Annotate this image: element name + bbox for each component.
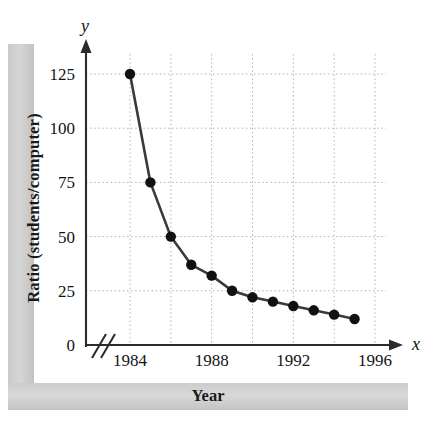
- axes: [81, 39, 404, 358]
- data-point: [125, 69, 135, 79]
- data-series-line: [130, 74, 355, 319]
- chart-plot-area: 0255075100125 1984198819921996 x y: [0, 0, 445, 421]
- data-point: [349, 314, 359, 324]
- y-tick-label: 75: [58, 173, 75, 192]
- chart-figure: Ratio (students/computer) Year 025507510…: [0, 0, 445, 421]
- data-point: [329, 309, 339, 319]
- y-tick-label: 100: [50, 119, 76, 138]
- x-tick-label: 1996: [358, 351, 392, 370]
- data-point: [288, 301, 298, 311]
- x-tick-label: 1988: [195, 351, 229, 370]
- x-tick-labels: 1984198819921996: [113, 351, 392, 370]
- data-point: [227, 286, 237, 296]
- horizontal-gridlines: [86, 74, 386, 291]
- x-tick-label: 1984: [113, 351, 148, 370]
- data-point: [206, 270, 216, 280]
- y-tick-labels: 0255075100125: [50, 65, 76, 355]
- data-point: [186, 260, 196, 270]
- x-tick-label: 1992: [276, 351, 310, 370]
- x-axis-variable-symbol: x: [411, 334, 420, 354]
- y-axis-arrowhead: [81, 39, 92, 53]
- y-tick-label: 50: [58, 228, 75, 247]
- data-point: [268, 296, 278, 306]
- data-point: [309, 305, 319, 315]
- y-tick-label: 125: [50, 65, 76, 84]
- data-point: [166, 231, 176, 241]
- y-tick-label: 0: [67, 336, 76, 355]
- data-point: [247, 292, 257, 302]
- y-tick-label: 25: [58, 282, 75, 301]
- x-axis-arrowhead: [389, 340, 403, 351]
- data-point: [145, 177, 155, 187]
- y-axis-variable-symbol: y: [79, 16, 89, 36]
- data-series-markers: [125, 69, 360, 324]
